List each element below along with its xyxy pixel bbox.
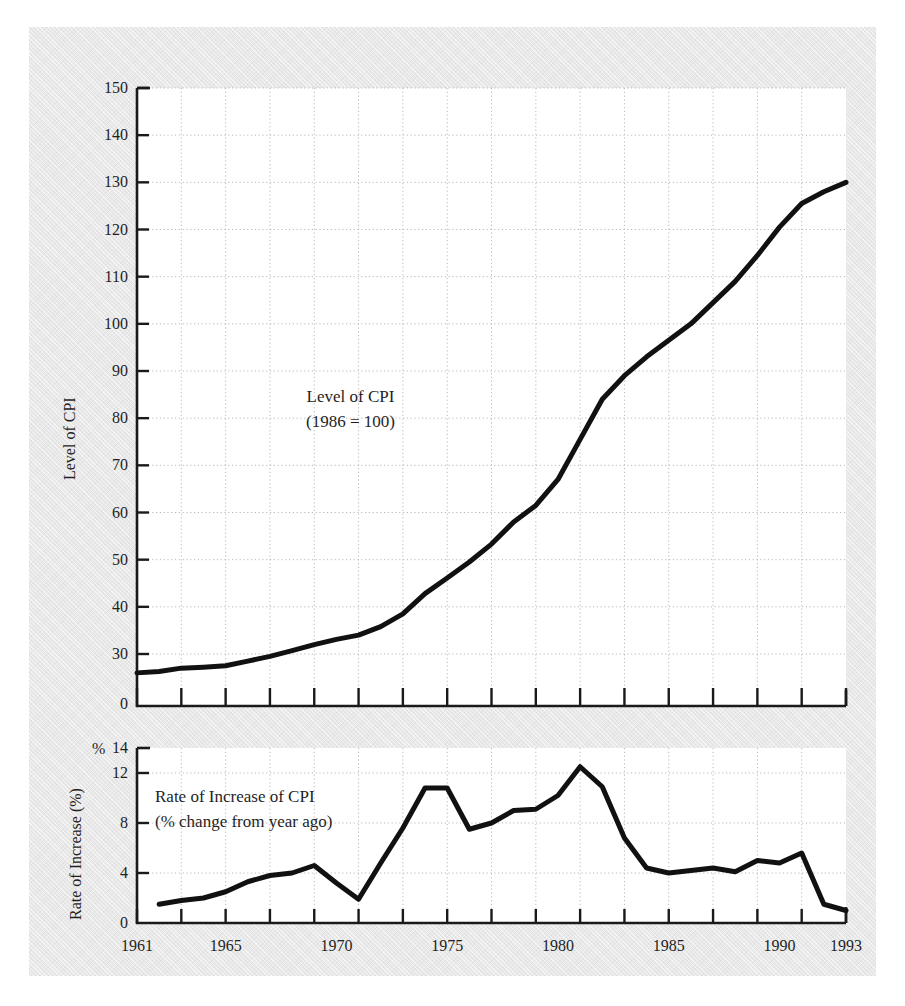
x-axis-tick-label: 1975 [417, 938, 477, 954]
level-of-cpi-chart: 304050607080901001101201301401500 Level … [0, 0, 905, 740]
x-axis-tick-label: 1985 [639, 938, 699, 954]
lower-plot-svg [0, 735, 905, 955]
figure-root: 304050607080901001101201301401500 Level … [0, 0, 905, 1006]
upper-y-axis-title: Level of CPI [62, 397, 78, 480]
upper-gridlines [137, 88, 846, 706]
lower-y-axis-title: Rate of Increase (%) [68, 788, 84, 920]
upper-y-tick-label: 70 [72, 457, 128, 473]
x-axis-tick-label: 1965 [196, 938, 256, 954]
upper-y-tick-label: 90 [72, 363, 128, 379]
lower-y-tick-label: 12 [74, 765, 128, 781]
x-axis-tick-label: 1990 [750, 938, 810, 954]
upper-y-tick-label: 40 [72, 599, 128, 615]
upper-y-tick-label: 150 [72, 80, 128, 96]
upper-annotation: Level of CPI (1986 = 100) [306, 385, 395, 434]
x-axis-tick-label: 1970 [306, 938, 366, 954]
upper-y-tick-label: 110 [72, 269, 128, 285]
x-axis-tick-label: 1961 [107, 938, 167, 954]
x-axis-tick-label: 1993 [816, 938, 876, 954]
upper-plot-svg [0, 0, 905, 740]
upper-y-tick-label: 60 [72, 505, 128, 521]
upper-y-tick-label: 130 [72, 174, 128, 190]
lower-annotation-line1: Rate of Increase of CPI [155, 785, 332, 810]
upper-y-tick-label: 100 [72, 316, 128, 332]
upper-y-origin-label: 0 [72, 696, 128, 712]
lower-annotation: Rate of Increase of CPI (% change from y… [155, 785, 332, 834]
lower-gridlines [137, 748, 846, 923]
upper-y-tick-label: 30 [72, 646, 128, 662]
upper-y-tick-label: 140 [72, 127, 128, 143]
upper-y-tick-label: 120 [72, 222, 128, 238]
upper-annotation-line2: (1986 = 100) [306, 410, 395, 435]
upper-y-tick-label: 50 [72, 552, 128, 568]
upper-y-tick-label: 80 [72, 410, 128, 426]
upper-annotation-line1: Level of CPI [306, 385, 395, 410]
rate-of-increase-chart: 1412840 % Rate of Increase (%) Rate of I… [0, 735, 905, 955]
lower-percent-symbol: % [92, 741, 105, 757]
x-axis-tick-label: 1980 [528, 938, 588, 954]
lower-annotation-line2: (% change from year ago) [155, 810, 332, 835]
